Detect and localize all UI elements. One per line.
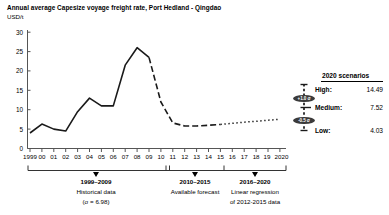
x-tick-06: 06: [107, 153, 119, 160]
scenarios-underline: [321, 81, 383, 82]
x-tick-12: 12: [179, 153, 191, 160]
scenario-medium-value: 7.52: [359, 104, 383, 111]
chart-page: Annual average Capesize voyage freight r…: [0, 0, 389, 215]
scenario-low-value: 4.03: [359, 127, 383, 134]
series-forecast-line: [149, 57, 220, 126]
x-tick-04: 04: [84, 153, 96, 160]
y-tick-25: 25: [9, 48, 23, 55]
x-tick-14: 14: [203, 153, 215, 160]
x-tick-10: 10: [155, 153, 167, 160]
x-tick-17: 17: [238, 153, 250, 160]
x-tick-11: 11: [167, 153, 179, 160]
period-bracket-markers: [93, 172, 258, 177]
period-3-desc: Linear regression: [219, 188, 291, 195]
x-tick-2020: 2020: [271, 153, 293, 160]
x-tick-01: 01: [48, 153, 60, 160]
series-historical-line: [30, 48, 149, 133]
y-tick-10: 10: [9, 106, 23, 113]
period-1-desc: Historical data: [60, 188, 132, 195]
scenario-high-value: 14.49: [359, 86, 383, 93]
sigma-badge-low: -0.5 σ: [293, 117, 315, 124]
x-tick-05: 05: [95, 153, 107, 160]
series-regression-line: [220, 119, 280, 124]
x-tick-09: 09: [143, 153, 155, 160]
x-tick-02: 02: [60, 153, 72, 160]
scenarios-title: 2020 scenarios: [322, 72, 369, 79]
y-tick-15: 15: [9, 87, 23, 94]
x-tick-00: 00: [36, 153, 48, 160]
x-tick-08: 08: [131, 153, 143, 160]
y-tick-5: 5: [9, 126, 23, 133]
period-3-range: 2016–2020: [219, 178, 291, 185]
x-tick-13: 13: [191, 153, 203, 160]
x-tick-15: 15: [214, 153, 226, 160]
x-tick-03: 03: [72, 153, 84, 160]
scenario-low-label: Low:: [315, 127, 330, 134]
period-3-note: of 2012-2015 data: [219, 198, 291, 205]
y-tick-30: 30: [9, 29, 23, 36]
x-axis-ticks: [30, 149, 280, 153]
y-tick-0: 0: [9, 145, 23, 152]
period-1-note: (σ = 6.98): [60, 198, 132, 205]
period-bracket-axis: [28, 166, 286, 171]
x-tick-07: 07: [119, 153, 131, 160]
x-tick-16: 16: [226, 153, 238, 160]
scenario-high-label: High:: [315, 86, 332, 93]
y-tick-20: 20: [9, 67, 23, 74]
scenario-medium-label: Medium:: [315, 104, 342, 111]
period-1-range: 1999–2009: [60, 178, 132, 185]
